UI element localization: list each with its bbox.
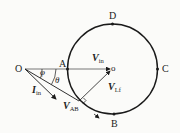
point-c-dot <box>156 68 159 71</box>
point-a-dot <box>66 68 69 71</box>
label-o: O <box>15 64 22 74</box>
vlf-line <box>79 71 110 101</box>
label-d: D <box>109 11 116 21</box>
point-b-dot <box>113 113 116 116</box>
label-theta: θ <box>55 76 59 85</box>
phasor-diagram: O A D C B o φ θ Vin Iin VAB VLf <box>0 0 180 133</box>
label-a: A <box>59 59 66 69</box>
label-vin: Vin <box>92 53 104 65</box>
label-vab: VAB <box>63 101 79 113</box>
right-angle-mark <box>83 98 86 104</box>
diagram-graphics <box>0 0 180 133</box>
direction-arrow <box>94 114 99 118</box>
label-c: C <box>162 64 169 74</box>
point-d-dot <box>111 23 114 26</box>
label-iin: Iin <box>32 85 41 97</box>
label-center: o <box>111 64 116 73</box>
label-vlf: VLf <box>108 82 121 94</box>
label-phi: φ <box>40 68 45 77</box>
label-b: B <box>111 119 118 129</box>
